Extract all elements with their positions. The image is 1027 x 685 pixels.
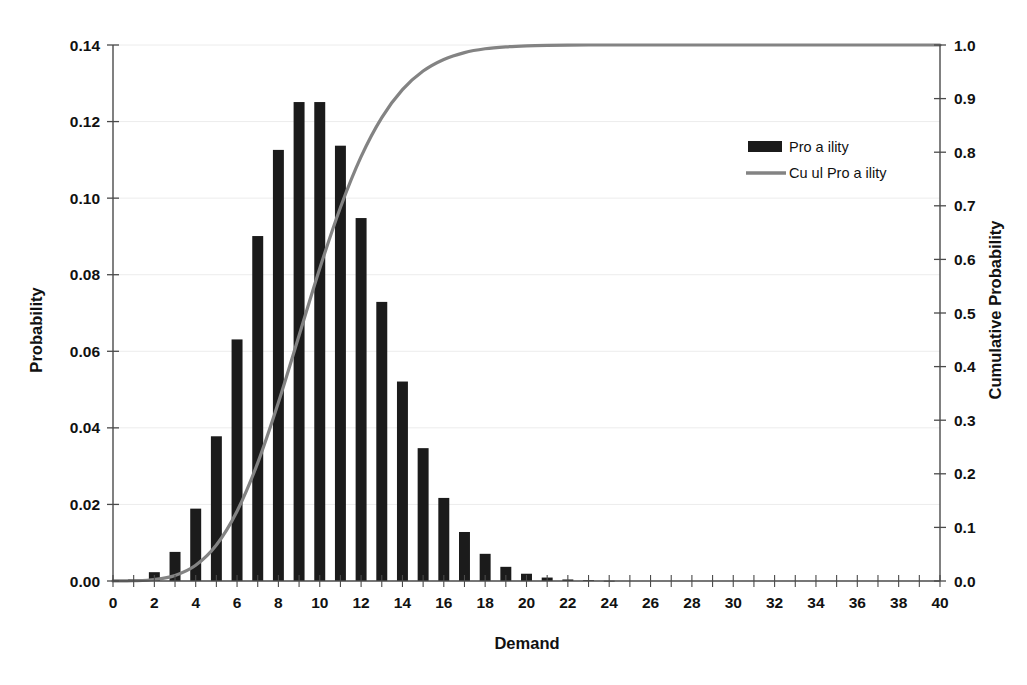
right-axis-tick-label: 0.4 [954, 358, 976, 375]
probability-distribution-chart: 0.000.020.040.060.080.100.120.14 0.00.10… [0, 0, 1027, 685]
x-axis-tick-label: 38 [890, 594, 908, 611]
x-axis-tick-label: 24 [601, 594, 619, 611]
x-axis-tick-label: 34 [807, 594, 825, 611]
bar [190, 509, 201, 581]
left-axis-tick-label: 0.14 [70, 37, 101, 54]
x-axis-tick-label: 28 [683, 594, 701, 611]
right-axis-tick-label: 0.3 [954, 412, 976, 429]
x-axis-tick-label: 40 [931, 594, 948, 611]
x-axis-tick-label: 12 [352, 594, 369, 611]
right-axis-tick-label: 0.5 [954, 305, 976, 322]
left-axis-tick-label: 0.10 [70, 190, 100, 207]
right-axis-tick-label: 1.0 [954, 37, 976, 54]
x-axis-tick-label: 10 [311, 594, 328, 611]
x-axis-tick-label: 22 [559, 594, 576, 611]
x-axis-tick-label: 6 [233, 594, 242, 611]
left-axis-title: Probability [27, 287, 45, 373]
x-axis-tick-label: 2 [150, 594, 159, 611]
bar [294, 102, 305, 581]
right-axis-tick-label: 0.9 [954, 90, 976, 107]
x-axis-tick-label: 20 [518, 594, 535, 611]
x-axis-tick-label: 30 [725, 594, 742, 611]
bar [232, 339, 243, 581]
x-axis-tick-label: 32 [766, 594, 783, 611]
right-axis-title: Cumulative Probability [986, 220, 1004, 400]
bar [314, 102, 325, 581]
bar [211, 436, 222, 581]
bar [252, 236, 263, 581]
chart-container: 0.000.020.040.060.080.100.120.14 0.00.10… [0, 0, 1027, 685]
bar [376, 302, 387, 581]
x-axis-tick-label: 18 [477, 594, 495, 611]
right-axis-tick-label: 0.8 [954, 144, 976, 161]
left-axis-tick-label: 0.00 [70, 573, 100, 590]
left-axis-tick-label: 0.04 [70, 419, 101, 436]
right-axis-tick-label: 0.6 [954, 251, 976, 268]
bar [438, 498, 449, 581]
right-axis-tick-label: 0.7 [954, 197, 976, 214]
legend-swatch-probability-icon [748, 141, 782, 152]
bar [356, 218, 367, 581]
left-axis-tick-label: 0.02 [70, 496, 100, 513]
x-axis-tick-labels: 0246810121416182022242628303234363840 [109, 594, 949, 611]
right-axis-tick-label: 0.1 [954, 519, 976, 536]
bar [273, 150, 284, 581]
x-axis-tick-label: 4 [191, 594, 200, 611]
left-axis-tick-label: 0.06 [70, 343, 101, 360]
legend-label-cumulative-probability: Cu ul Pro a ility [789, 165, 887, 181]
right-axis-tick-label: 0.0 [954, 573, 976, 590]
x-axis-tick-label: 0 [109, 594, 118, 611]
x-axis-tick-label: 14 [394, 594, 412, 611]
x-axis-tick-label: 26 [642, 594, 660, 611]
bar [397, 382, 408, 581]
right-axis-tick-label: 0.2 [954, 465, 976, 482]
x-axis-tick-label: 36 [849, 594, 867, 611]
bar [418, 448, 429, 581]
x-axis-title: Demand [494, 634, 559, 652]
x-axis-tick-label: 16 [435, 594, 453, 611]
left-axis-tick-label: 0.08 [70, 266, 101, 283]
legend-label-probability: Pro a ility [789, 139, 849, 155]
bar [459, 532, 470, 581]
x-axis-tick-label: 8 [274, 594, 283, 611]
left-axis-tick-label: 0.12 [70, 113, 100, 130]
